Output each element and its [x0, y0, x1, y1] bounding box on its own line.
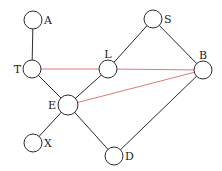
nodes-layer: ATLSBEXD	[14, 10, 212, 165]
node-label: L	[104, 48, 112, 61]
node-circle	[24, 11, 42, 29]
node-label: A	[43, 14, 53, 27]
node-label: S	[164, 13, 172, 26]
node-t: T	[14, 60, 41, 78]
node-circle	[194, 61, 212, 79]
node-b: B	[194, 49, 212, 79]
edge-l-b	[108, 69, 203, 70]
node-s: S	[144, 10, 172, 28]
node-label: D	[125, 150, 134, 163]
node-circle	[99, 60, 117, 78]
node-circle	[58, 95, 78, 115]
node-circle	[105, 147, 123, 165]
node-d: D	[105, 147, 134, 165]
edge-s-b	[153, 19, 203, 70]
node-x: X	[24, 134, 52, 152]
edge-e-b	[68, 70, 203, 105]
node-circle	[23, 60, 41, 78]
node-circle	[24, 134, 42, 152]
node-label: E	[48, 99, 56, 112]
edge-b-d	[114, 70, 203, 156]
node-circle	[144, 10, 162, 28]
node-a: A	[24, 11, 53, 29]
edge-l-s	[108, 19, 153, 69]
edges-layer	[32, 19, 203, 156]
node-label: X	[44, 137, 52, 150]
node-l: L	[99, 48, 117, 78]
graph-diagram: ATLSBEXD	[0, 0, 222, 171]
node-label: T	[14, 63, 22, 76]
node-label: B	[199, 49, 207, 62]
node-e: E	[48, 95, 78, 115]
